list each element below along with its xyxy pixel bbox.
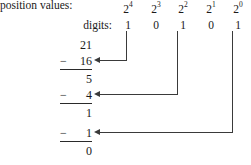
subtraction-row-5: −1	[60, 127, 92, 139]
subtraction-rule-3	[60, 103, 92, 104]
power-cell-2: 22	[172, 4, 194, 16]
subtraction-value-3: 4	[72, 89, 92, 101]
power-exponent-1: 3	[157, 0, 161, 9]
subtraction-value-2: 5	[72, 73, 92, 85]
subtraction-value-4: 1	[72, 107, 92, 119]
power-exponent-0: 4	[129, 0, 133, 9]
binary-conversion-diagram: position values: digits: 24 23 22 21 20 …	[0, 0, 251, 165]
subtraction-value-5: 1	[72, 127, 92, 139]
subtraction-rule-1	[60, 69, 92, 70]
connector-line-horizontal-1	[99, 94, 178, 95]
digit-cell-1: 0	[145, 20, 167, 32]
digits-label: digits:	[0, 20, 112, 32]
subtraction-value-0: 21	[72, 39, 92, 51]
subtraction-value-6: 0	[72, 145, 92, 157]
connector-arrowhead-1	[94, 91, 100, 97]
power-cell-1: 23	[145, 4, 167, 16]
subtraction-sign-5: −	[60, 127, 72, 139]
connector-line-vertical-2	[232, 31, 233, 132]
subtraction-row-3: −4	[60, 89, 92, 101]
power-cell-3: 21	[200, 4, 222, 16]
digit-cell-4: 1	[227, 20, 249, 32]
power-cell-4: 20	[227, 4, 249, 16]
subtraction-row-2: 5	[60, 73, 92, 85]
subtraction-rule-5	[60, 141, 92, 142]
subtraction-row-1: −16	[60, 55, 92, 67]
digit-cell-3: 0	[200, 20, 222, 32]
connector-line-horizontal-2	[99, 132, 233, 133]
power-cell-0: 24	[117, 4, 139, 16]
digit-cell-0: 1	[117, 20, 139, 32]
digit-cell-2: 1	[172, 20, 194, 32]
subtraction-row-6: 0	[60, 145, 92, 157]
connector-arrowhead-0	[94, 57, 100, 63]
subtraction-row-4: 1	[60, 107, 92, 119]
power-exponent-3: 1	[212, 0, 216, 9]
position-values-label: position values:	[0, 0, 73, 12]
power-exponent-4: 0	[239, 0, 243, 9]
connector-line-vertical-0	[126, 31, 127, 61]
subtraction-sign-1: −	[60, 55, 72, 67]
connector-line-vertical-1	[177, 31, 178, 94]
connector-arrowhead-2	[94, 129, 100, 135]
subtraction-sign-3: −	[60, 89, 72, 101]
power-exponent-2: 2	[184, 0, 188, 9]
connector-line-horizontal-0	[99, 60, 127, 61]
subtraction-value-1: 16	[72, 55, 92, 67]
subtraction-row-0: 21	[60, 39, 92, 51]
